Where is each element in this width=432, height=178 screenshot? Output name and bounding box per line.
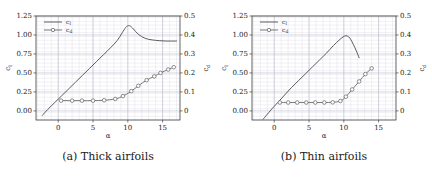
y-right-axis-title-a: cd [202,64,211,72]
data-point-marker [59,99,63,103]
data-point-marker [350,88,354,92]
y-left-tick-label: 0.00 [232,107,248,115]
y-right-tick-label: 0.4 [400,31,412,39]
x-tick-label: 0 [56,124,60,132]
x-tick-label: 15 [374,124,383,132]
y-right-axis-title-b-sub: d [421,64,427,68]
y-right-tick-labels-a: 00.10.20.30.40.5 [184,12,196,115]
y-left-tick-label: 0.50 [16,69,32,77]
y-left-tick-label: 1.00 [232,31,248,39]
data-point-marker [314,101,318,105]
data-point-marker [70,99,74,103]
x-tick-label: 0 [272,124,276,132]
y-right-tick-label: 0.2 [184,69,195,77]
y-left-tick-labels-b: 0.000.250.500.751.001.25 [232,12,248,115]
svg-text:cd: cd [418,64,427,72]
y-left-tick-label: 1.25 [16,12,32,20]
y-right-tick-label: 0.3 [400,50,411,58]
y-left-axis-title-b: cl [220,65,229,71]
data-point-marker [130,89,134,93]
y-right-tick-label: 0.1 [184,88,195,96]
y-right-axis-title-a-sub: d [205,64,211,68]
x-tick-labels-b: 051015 [272,124,383,132]
y-right-tick-label: 0.1 [400,88,411,96]
y-right-tick-label: 0.4 [184,31,196,39]
y-left-tick-label: 0.75 [16,50,32,58]
data-point-marker [323,101,327,105]
y-left-tick-label: 1.25 [232,12,248,20]
y-right-tick-labels-b: 00.10.20.30.40.5 [400,12,412,115]
data-point-marker [80,99,84,103]
data-point-marker [286,101,290,105]
y-right-tick-label: 0 [400,107,404,115]
svg-text:cl: cl [220,65,229,71]
legend-marker-cd-a [51,28,54,31]
data-point-marker [136,84,140,88]
tick-marks-a [34,16,183,123]
data-point-marker [114,97,118,101]
y-left-tick-label: 0.75 [232,50,248,58]
data-point-marker [295,101,299,105]
x-axis-title-b: α [322,132,327,140]
caption-b: (b) Thin airfoils [216,150,432,163]
data-point-marker [364,72,368,76]
y-left-axis-title-a: cl [4,65,13,71]
svg-text:cd: cd [202,64,211,72]
figure-container: 051015 0.000.250.500.751.001.25 00.10.20… [0,0,432,178]
y-right-tick-label: 0.5 [184,12,195,20]
y-left-tick-label: 0.00 [16,107,32,115]
data-point-marker [172,65,176,69]
data-point-marker [331,101,335,105]
y-left-tick-label: 1.00 [16,31,32,39]
legend-label-cd-b: cd [282,26,288,34]
series-group-b [263,36,373,120]
data-point-marker [152,75,156,79]
data-point-marker [121,94,125,98]
y-right-tick-label: 0.2 [400,69,411,77]
data-point-marker [339,99,343,103]
y-right-axis-title-b: cd [418,64,427,72]
y-left-tick-label: 0.25 [232,88,248,96]
y-right-tick-label: 0.3 [184,50,195,58]
chart-svg-a: 051015 0.000.250.500.751.001.25 00.10.20… [0,0,216,148]
legend-label-cd-a: cd [66,26,72,34]
y-right-tick-label: 0.5 [400,12,411,20]
x-tick-labels-a: 051015 [56,124,167,132]
y-left-tick-label: 0.25 [16,88,32,96]
series-line-cd [61,67,174,100]
caption-a: (a) Thick airfoils [0,150,216,163]
data-point-marker [159,71,163,75]
x-tick-label: 5 [307,124,311,132]
y-left-axis-title-b-sub: l [223,65,229,67]
data-point-marker [145,78,149,82]
plot-frame-a [36,16,180,120]
x-tick-label: 15 [158,124,167,132]
chart-svg-b: 051015 0.000.250.500.751.001.25 00.10.20… [216,0,432,148]
panel-b: 051015 0.000.250.500.751.001.25 00.10.20… [216,0,432,178]
series-line-cl [263,36,359,120]
x-tick-label: 5 [91,124,95,132]
x-tick-label: 10 [339,124,348,132]
data-point-marker [166,68,170,72]
data-point-marker [91,99,95,103]
grid-major-a [36,16,180,120]
y-right-tick-label: 0 [184,107,188,115]
plot-b: 051015 0.000.250.500.751.001.25 00.10.20… [216,0,432,148]
plot-a: 051015 0.000.250.500.751.001.25 00.10.20… [0,0,216,148]
y-left-axis-title-a-sub: l [7,65,13,67]
tick-marks-b [250,16,399,123]
data-point-marker [278,101,282,105]
data-point-marker [102,98,106,102]
data-point-marker [370,67,374,71]
data-point-marker [357,80,361,84]
y-left-tick-labels-a: 0.000.250.500.751.001.25 [16,12,32,115]
legend-marker-cd-b [267,28,270,31]
data-point-marker [304,101,308,105]
data-point-marker [344,95,348,99]
x-tick-label: 10 [123,124,132,132]
grid-minor-a [36,16,180,120]
y-left-tick-label: 0.50 [232,69,248,77]
panel-a: 051015 0.000.250.500.751.001.25 00.10.20… [0,0,216,178]
svg-text:cl: cl [4,65,13,71]
x-axis-title-a: α [106,132,111,140]
